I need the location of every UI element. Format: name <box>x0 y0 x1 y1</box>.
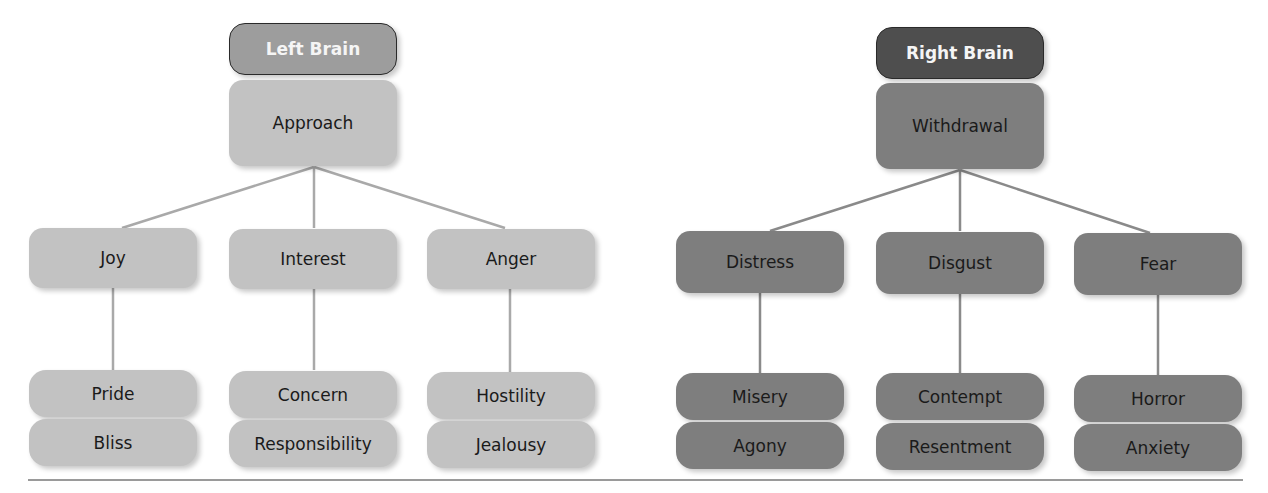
bottom-divider <box>28 479 1243 481</box>
contempt-node: Contempt <box>876 373 1044 420</box>
anxiety-node: Anxiety <box>1074 424 1242 471</box>
interest-label: Interest <box>280 249 346 269</box>
withdrawal-node: Withdrawal <box>876 83 1044 169</box>
approach-node: Approach <box>229 80 397 166</box>
agony-label: Agony <box>733 436 787 456</box>
withdrawal-label: Withdrawal <box>912 116 1008 136</box>
left-brain-header: Left Brain <box>229 23 397 75</box>
distress-label: Distress <box>726 252 794 272</box>
jealousy-node: Jealousy <box>427 421 595 468</box>
bliss-label: Bliss <box>94 433 133 453</box>
agony-node: Agony <box>676 422 844 469</box>
bliss-node: Bliss <box>29 419 197 466</box>
pride-node: Pride <box>29 370 197 417</box>
concern-node: Concern <box>229 371 397 418</box>
disgust-label: Disgust <box>928 253 992 273</box>
horror-label: Horror <box>1131 389 1185 409</box>
misery-node: Misery <box>676 373 844 420</box>
right-brain-header: Right Brain <box>876 27 1044 79</box>
approach-label: Approach <box>273 113 354 133</box>
jealousy-label: Jealousy <box>476 435 547 455</box>
anger-node: Anger <box>427 229 595 289</box>
pride-label: Pride <box>92 384 135 404</box>
hostility-node: Hostility <box>427 372 595 419</box>
left-brain-header-label: Left Brain <box>266 39 361 59</box>
resentment-label: Resentment <box>909 437 1012 457</box>
disgust-node: Disgust <box>876 232 1044 294</box>
joy-node: Joy <box>29 228 197 288</box>
concern-label: Concern <box>278 385 348 405</box>
responsibility-node: Responsibility <box>229 420 397 467</box>
resentment-node: Resentment <box>876 423 1044 470</box>
anger-label: Anger <box>486 249 537 269</box>
hostility-label: Hostility <box>476 386 546 406</box>
anxiety-label: Anxiety <box>1126 438 1190 458</box>
horror-node: Horror <box>1074 375 1242 422</box>
right-brain-header-label: Right Brain <box>906 43 1014 63</box>
fear-label: Fear <box>1140 254 1177 274</box>
fear-node: Fear <box>1074 233 1242 295</box>
joy-label: Joy <box>100 248 125 268</box>
interest-node: Interest <box>229 229 397 289</box>
emotion-hierarchy-diagram: Left Brain Approach Joy Interest Anger P… <box>0 0 1268 493</box>
contempt-label: Contempt <box>918 387 1002 407</box>
responsibility-label: Responsibility <box>254 434 372 454</box>
distress-node: Distress <box>676 231 844 293</box>
misery-label: Misery <box>732 387 788 407</box>
